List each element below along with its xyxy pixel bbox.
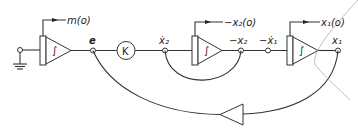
node-e-label: e (89, 35, 96, 46)
arrow-icon (52, 18, 58, 22)
ic-label-1: m(o) (67, 15, 91, 26)
gain-block-k: K (117, 42, 135, 60)
integrator-1: ∫ m(o) (40, 15, 91, 65)
ic-label-2: −x₂(o) (224, 17, 256, 28)
node-x1-label: x₁ (331, 35, 342, 46)
gain-label: K (122, 46, 129, 57)
block-diagram: ∫ m(o) e K ẋ₂ ∫ −x₂(o) −x₂ −ẋ₁ ∫ x₁(o) (0, 0, 358, 131)
arrow-icon (205, 20, 211, 24)
arrow-icon (303, 20, 309, 24)
input-ground (13, 48, 40, 70)
node-x2dot-label: ẋ₂ (158, 35, 169, 46)
integral-symbol: ∫ (204, 45, 209, 56)
feedback-amplifier (220, 104, 243, 125)
node-neg-x2-label: −x₂ (229, 35, 247, 46)
input-node (18, 48, 23, 53)
node-neg-x1dot-label: −ẋ₁ (259, 35, 277, 46)
integral-symbol: ∫ (52, 45, 57, 56)
node-neg-x1dot (266, 48, 271, 53)
integral-symbol: ∫ (299, 45, 304, 56)
